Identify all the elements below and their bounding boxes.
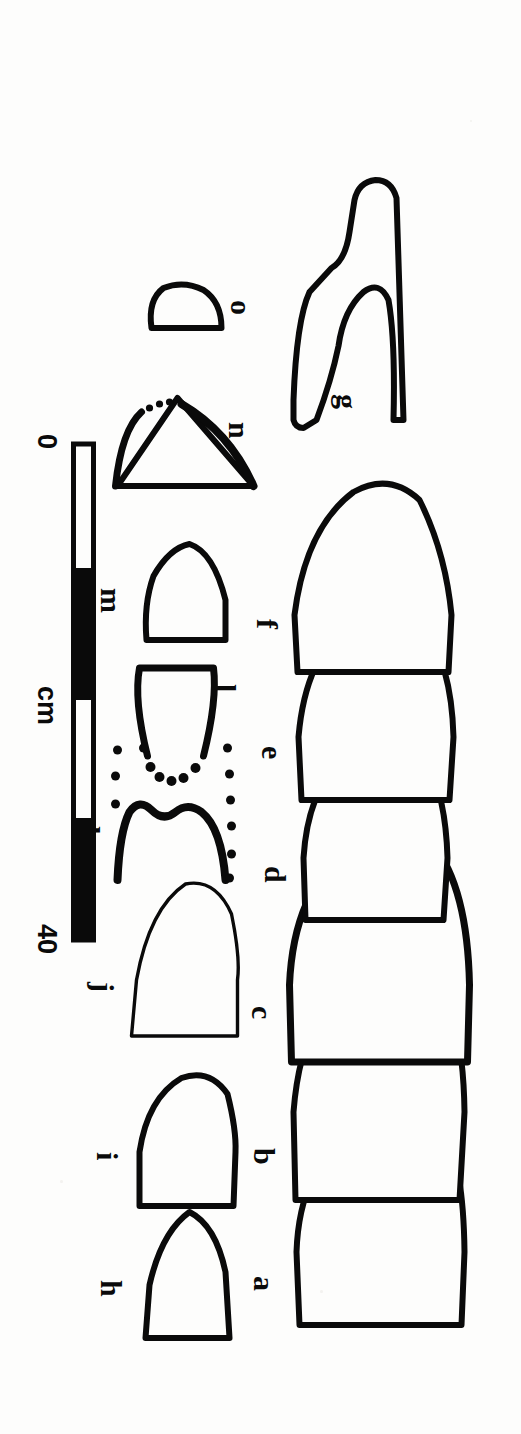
- scale-bar-zero-label: 0: [32, 434, 59, 449]
- rotated-figure-stage: a b c d e f g h i j k l m n o 0 cm 40: [0, 0, 521, 1434]
- profile-label-e: e: [256, 746, 286, 759]
- profile-n: [115, 398, 253, 486]
- profile-label-d: d: [259, 866, 289, 883]
- profile-l: [137, 668, 214, 786]
- profile-m: [145, 544, 225, 640]
- profile-h: [145, 1212, 229, 1338]
- profile-g: [293, 180, 403, 428]
- scale-bar-unit-label: cm: [32, 686, 59, 725]
- profile-f: [294, 484, 451, 672]
- vessel-profiles-drawing: [0, 0, 521, 1434]
- profile-label-m: m: [95, 588, 125, 613]
- figure-content: a b c d e f g h i j k l m n o 0 cm 40: [0, 0, 521, 1434]
- profile-label-n: n: [223, 422, 253, 439]
- profile-label-b: b: [248, 1148, 278, 1165]
- paper-speck: [60, 1180, 63, 1183]
- profile-k: [111, 744, 236, 883]
- profile-o: [150, 284, 221, 328]
- profile-label-a: a: [248, 1276, 278, 1291]
- figure-plate: a b c d e f g h i j k l m n o 0 cm 40: [0, 0, 521, 1434]
- paper-speck: [470, 120, 472, 122]
- scale-bar-segment-2: [75, 568, 91, 700]
- scale-bar: [73, 444, 93, 942]
- scale-bar-max-label: 40: [32, 924, 59, 954]
- profile-label-k: k: [73, 826, 103, 843]
- profile-label-i: i: [91, 1152, 121, 1160]
- paper-speck: [320, 1290, 323, 1293]
- profile-label-l: l: [209, 684, 239, 692]
- profile-i: [139, 1075, 235, 1206]
- profile-label-j: j: [87, 982, 117, 992]
- profile-label-c: c: [246, 1006, 276, 1019]
- profile-l-reconstruction-dots: [145, 762, 200, 786]
- profile-label-o: o: [225, 300, 255, 315]
- profile-label-g: g: [331, 394, 361, 409]
- profile-label-h: h: [95, 1280, 125, 1297]
- profile-label-f: f: [251, 619, 281, 629]
- profile-j: [131, 883, 238, 1036]
